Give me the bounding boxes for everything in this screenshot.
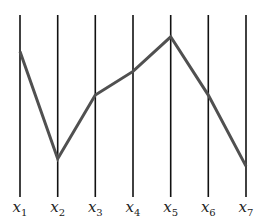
axis-label-x4: x4: [118, 198, 148, 218]
axis-label-x2: x2: [43, 198, 73, 218]
axis-label-x7: x7: [231, 198, 261, 218]
axis-label-x3: x3: [80, 198, 110, 218]
axis-label-x1: x1: [5, 198, 35, 218]
parallel-coordinates-plot: [0, 0, 263, 220]
axis-label-x5: x5: [156, 198, 186, 218]
axis-label-x6: x6: [193, 198, 223, 218]
